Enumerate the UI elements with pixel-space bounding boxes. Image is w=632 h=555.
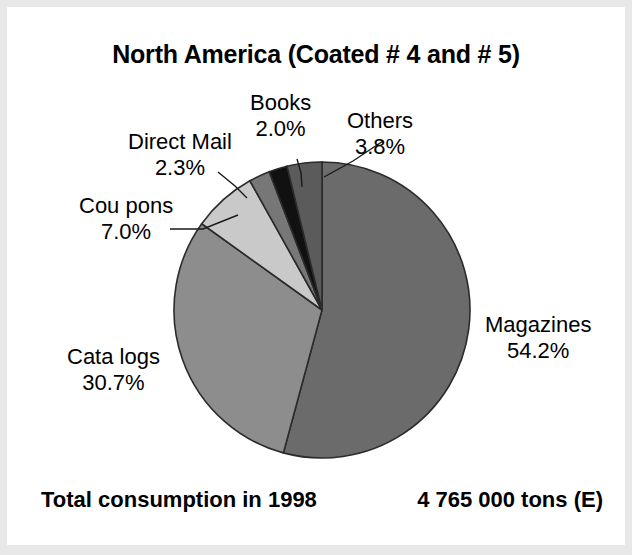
slice-label-books: Books2.0% [250,90,311,142]
slice-label-percent: 3.8% [347,134,413,160]
scan-edge-bottom [0,545,632,555]
pie-chart-figure: North America (Coated # 4 and # 5) Magaz… [0,0,632,555]
slice-label-name: Cou pons [79,193,173,219]
slice-label-direct-mail: Direct Mail2.3% [128,129,232,181]
total-consumption-label: Total consumption in 1998 [29,487,317,513]
scan-edge-right [625,0,632,555]
slice-label-catalogs: Cata logs30.7% [67,344,160,396]
total-consumption-value: 4 765 000 tons (E) [417,487,609,513]
slice-label-name: Books [250,90,311,116]
slice-label-percent: 2.3% [128,155,232,181]
slice-label-magazines: Magazines54.2% [485,312,591,364]
slice-label-name: Direct Mail [128,129,232,155]
scan-edge-left [0,0,7,555]
slice-label-name: Others [347,108,413,134]
slice-label-percent: 54.2% [485,338,591,364]
pie-chart-canvas [7,7,625,545]
figure-plate: North America (Coated # 4 and # 5) Magaz… [7,7,625,545]
footer-summary: Total consumption in 1998 4 765 000 tons… [29,487,609,513]
pie-slices [174,162,470,458]
slice-label-percent: 30.7% [67,370,160,396]
slice-label-percent: 2.0% [250,116,311,142]
slice-label-name: Magazines [485,312,591,338]
slice-label-coupons: Cou pons7.0% [79,193,173,245]
slice-label-others: Others3.8% [347,108,413,160]
slice-label-percent: 7.0% [79,219,173,245]
slice-label-name: Cata logs [67,344,160,370]
scan-edge-top [0,0,632,7]
